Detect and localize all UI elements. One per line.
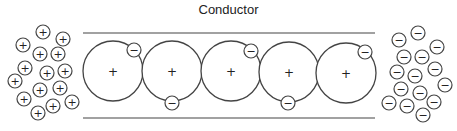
minus-sign: −: [396, 83, 405, 96]
cation: +: [36, 25, 50, 39]
cation: +: [56, 32, 70, 46]
minus-sign: −: [167, 97, 176, 110]
minus-sign: −: [410, 70, 419, 83]
anion: −: [382, 96, 396, 110]
plus-sign: +: [226, 65, 236, 79]
cation: +: [51, 47, 65, 61]
anion: −: [411, 26, 425, 40]
plus-sign: +: [60, 65, 69, 78]
electron: −: [281, 96, 295, 110]
anion: −: [430, 40, 444, 54]
plus-sign: +: [35, 48, 44, 61]
minus-sign: −: [418, 109, 427, 122]
plus-sign: +: [284, 66, 294, 80]
plus-sign: +: [10, 75, 19, 88]
cation: +: [17, 92, 31, 106]
plus-sign: +: [58, 33, 67, 46]
cation: +: [31, 106, 45, 120]
plus-sign: +: [108, 65, 118, 79]
minus-sign: −: [432, 41, 441, 54]
plus-sign: +: [19, 93, 28, 106]
anion: −: [438, 78, 452, 92]
anion: −: [390, 65, 404, 79]
minus-sign: −: [429, 96, 438, 109]
anion: −: [392, 33, 406, 47]
plus-sign: +: [18, 39, 27, 52]
plus-sign: +: [48, 100, 57, 113]
plus-sign: +: [35, 84, 44, 97]
minus-sign: −: [440, 79, 449, 92]
anion-cluster: −−−−−−−−−−−−−−−: [382, 26, 452, 122]
plus-sign: +: [341, 67, 351, 81]
minus-sign: −: [246, 45, 255, 58]
cation: +: [18, 61, 32, 75]
anion: −: [415, 50, 429, 64]
minus-sign: −: [129, 44, 138, 57]
anion: −: [413, 86, 427, 100]
plus-sign: +: [67, 96, 76, 109]
cation: +: [53, 81, 67, 95]
anion: −: [408, 69, 422, 83]
anion: −: [416, 108, 430, 122]
electron: −: [358, 45, 372, 59]
minus-sign: −: [384, 97, 393, 110]
electron: −: [127, 43, 141, 57]
minus-sign: −: [402, 100, 411, 113]
cation: +: [33, 47, 47, 61]
anion: −: [397, 50, 411, 64]
minus-sign: −: [413, 27, 422, 40]
electron: −: [165, 96, 179, 110]
plus-sign: +: [42, 67, 51, 80]
minus-sign: −: [392, 66, 401, 79]
plus-sign: +: [167, 65, 177, 79]
minus-sign: −: [394, 34, 403, 47]
plus-sign: +: [33, 107, 42, 120]
cation-cluster: +++++++++++++++: [8, 25, 79, 120]
anion: −: [394, 82, 408, 96]
electron: −: [244, 44, 258, 58]
plus-sign: +: [55, 82, 64, 95]
anion: −: [400, 99, 414, 113]
cation: +: [46, 99, 60, 113]
minus-sign: −: [430, 63, 439, 76]
cation: +: [58, 64, 72, 78]
cation: +: [16, 38, 30, 52]
plus-sign: +: [38, 26, 47, 39]
plus-sign: +: [53, 48, 62, 61]
atom-core: +: [259, 42, 319, 102]
cation: +: [65, 95, 79, 109]
atom-core: +: [142, 41, 202, 101]
cation: +: [8, 74, 22, 88]
cation: +: [33, 83, 47, 97]
conductor-diagram: +++++ −−−−− +++++++++++++++ −−−−−−−−−−−−…: [0, 0, 457, 131]
minus-sign: −: [360, 46, 369, 59]
anion: −: [428, 62, 442, 76]
anion: −: [427, 95, 441, 109]
minus-sign: −: [399, 51, 408, 64]
plus-sign: +: [20, 62, 29, 75]
minus-sign: −: [417, 51, 426, 64]
minus-sign: −: [415, 87, 424, 100]
minus-sign: −: [283, 97, 292, 110]
cation: +: [40, 66, 54, 80]
